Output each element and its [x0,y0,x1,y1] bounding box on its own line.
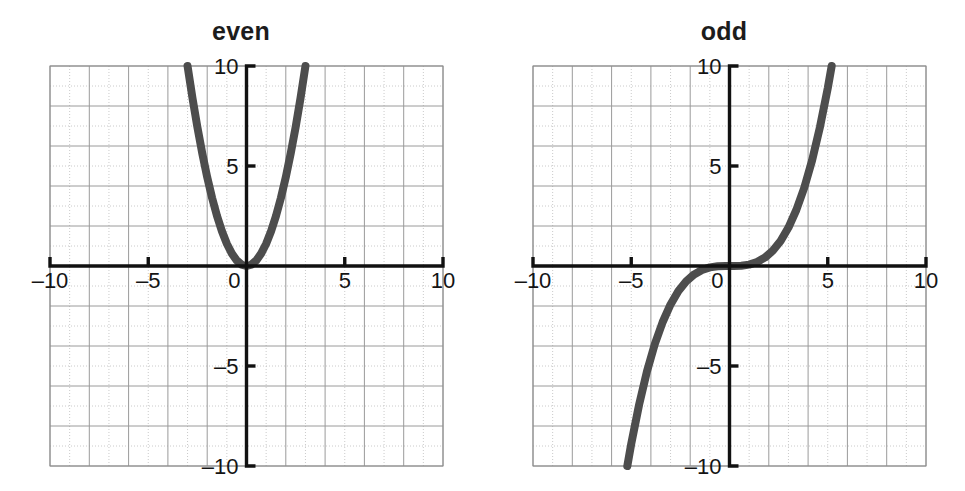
x-tick-label: –10 [32,268,69,293]
x-tick-label: 5 [822,268,834,293]
x-tick-label: 0 [228,268,240,293]
panel-odd: odd –10–50510–10–5510 [483,0,965,491]
y-tick-label: 5 [709,154,721,179]
y-tick-label: 5 [226,154,238,179]
x-tick-label: –5 [136,268,160,293]
x-tick-label: –10 [515,268,552,293]
y-tick-label: 10 [214,54,238,79]
even-odd-function-figure: even –10–50510–10–5510 odd –10–50510–10–… [0,0,965,491]
x-tick-label: 10 [914,268,938,293]
y-tick-label: 10 [697,54,721,79]
y-tick-label: –10 [685,454,722,479]
y-tick-label: –5 [214,354,238,379]
panel-even: even –10–50510–10–5510 [0,0,482,491]
plot-even: –10–50510–10–5510 [0,0,482,491]
y-tick-label: –5 [697,354,721,379]
x-tick-label: 10 [431,268,455,293]
x-tick-label: –5 [619,268,643,293]
x-tick-label: 0 [711,268,723,293]
plot-odd: –10–50510–10–5510 [483,0,965,491]
y-tick-label: –10 [202,454,239,479]
x-tick-label: 5 [339,268,351,293]
